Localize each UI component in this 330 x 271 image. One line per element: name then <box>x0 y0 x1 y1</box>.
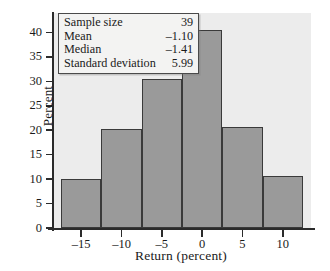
y-axis-tick-label: 40 <box>2 26 42 38</box>
y-axis-tick-label: 30 <box>2 75 42 87</box>
x-axis-tick <box>282 230 284 237</box>
x-axis-tick <box>242 230 244 237</box>
statistics-table: Sample size39Mean–1.10Median–1.41Standar… <box>64 16 193 70</box>
statistics-row: Mean–1.10 <box>64 29 193 42</box>
x-axis-tick <box>201 230 203 237</box>
histogram-bar <box>142 79 182 228</box>
statistics-box: Sample size39Mean–1.10Median–1.41Standar… <box>58 13 199 74</box>
histogram-bar <box>61 179 101 228</box>
y-axis-tick-label: 15 <box>2 148 42 160</box>
y-axis-tick-label: 25 <box>2 99 42 111</box>
statistics-row: Median–1.41 <box>64 43 193 56</box>
histogram-figure: 0510152025303540–15–10–50510 Percent Ret… <box>0 0 330 271</box>
statistics-value: –1.10 <box>156 29 193 42</box>
histogram-bar <box>222 127 262 228</box>
statistics-value: –1.41 <box>156 43 193 56</box>
x-axis-tick <box>80 230 82 237</box>
statistics-value: 5.99 <box>156 56 193 69</box>
statistics-row: Standard deviation5.99 <box>64 56 193 69</box>
x-axis-label: Return (percent) <box>50 248 312 264</box>
x-axis-tick <box>161 230 163 237</box>
statistics-label: Median <box>64 43 156 56</box>
y-axis-tick-label: 10 <box>2 173 42 185</box>
x-axis-tick <box>121 230 123 237</box>
statistics-label: Sample size <box>64 16 156 29</box>
x-axis-line <box>48 228 315 230</box>
y-axis-label: Percent <box>40 66 56 146</box>
histogram-bar <box>101 129 141 228</box>
y-axis-tick-label: 35 <box>2 50 42 62</box>
statistics-value: 39 <box>156 16 193 29</box>
y-axis-tick-label: 20 <box>2 124 42 136</box>
statistics-row: Sample size39 <box>64 16 193 29</box>
histogram-bar <box>263 176 303 228</box>
statistics-label: Mean <box>64 29 156 42</box>
y-axis-tick-label: 0 <box>2 222 42 234</box>
y-axis-tick-label: 5 <box>2 197 42 209</box>
statistics-label: Standard deviation <box>64 56 156 69</box>
